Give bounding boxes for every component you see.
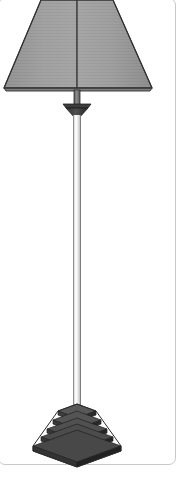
collar-top-disc bbox=[63, 104, 91, 108]
floor-lamp-illustration bbox=[0, 0, 193, 494]
column-pole bbox=[73, 115, 81, 408]
lampshade-weave-overlay bbox=[4, 0, 152, 88]
column-group bbox=[73, 115, 81, 408]
lampshade-group bbox=[4, 0, 152, 91]
stepped-base-group bbox=[33, 404, 121, 467]
lamp-render-stage[interactable] bbox=[0, 0, 193, 494]
